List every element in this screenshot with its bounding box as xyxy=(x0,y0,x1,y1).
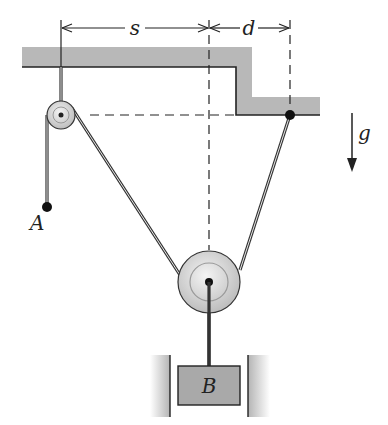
point-a-label: A xyxy=(28,211,44,235)
anchor-point xyxy=(285,110,295,120)
pulley-diagram: s d A B xyxy=(0,0,388,425)
small-pulley xyxy=(47,101,75,129)
block-b-label: B xyxy=(201,374,217,398)
dimension-s-label: s xyxy=(130,16,140,40)
gravity-label: g xyxy=(358,121,371,145)
gravity-arrow-icon xyxy=(347,113,357,172)
dimension-d-label: d xyxy=(243,16,256,40)
